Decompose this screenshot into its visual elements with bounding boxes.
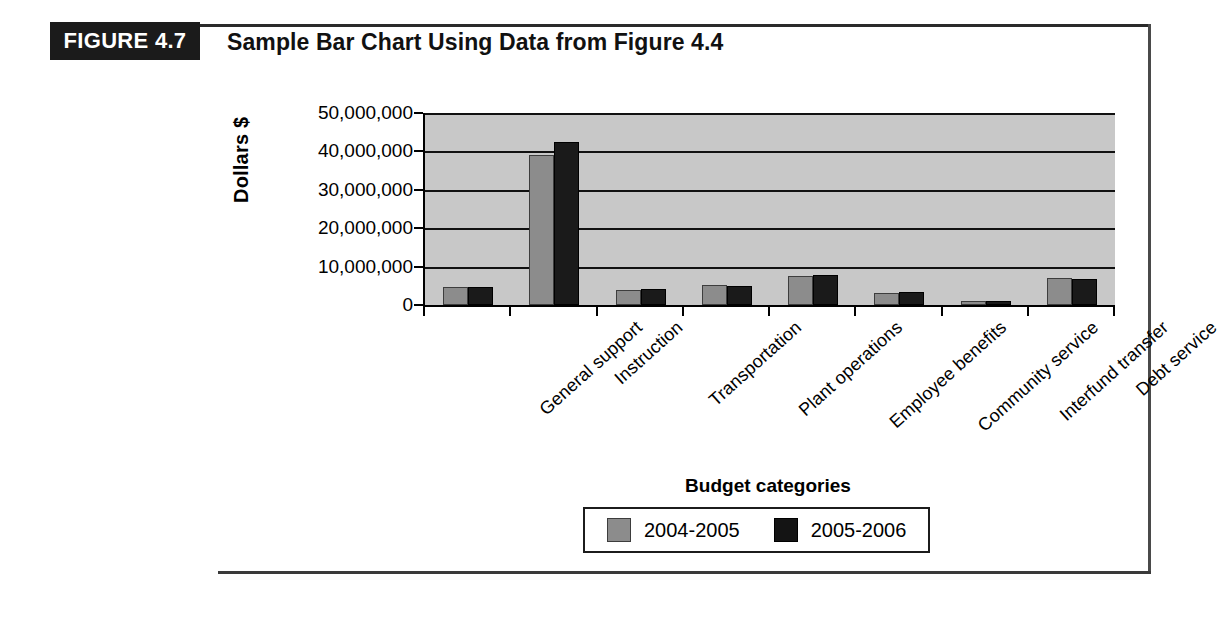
bar <box>1072 279 1097 305</box>
y-tick-mark <box>414 112 423 114</box>
figure-number-badge: FIGURE 4.7 <box>50 22 200 60</box>
x-tick-mark <box>682 305 684 316</box>
bar-group <box>425 113 511 305</box>
y-tick-label: 50,000,000 <box>318 102 413 124</box>
y-tick-label: 10,000,000 <box>318 256 413 278</box>
x-tick-mark <box>509 305 511 316</box>
bar-group <box>511 113 597 305</box>
bar-group <box>943 113 1029 305</box>
bar <box>788 276 813 305</box>
legend-label: 2005-2006 <box>811 519 907 542</box>
x-tick-mark <box>768 305 770 316</box>
figure-caption-title: Sample Bar Chart Using Data from Figure … <box>227 24 723 60</box>
legend-item: 2004-2005 <box>607 518 740 542</box>
bar <box>727 286 752 305</box>
x-category-label: Plant operations <box>795 317 907 421</box>
x-tick-mark <box>596 305 598 316</box>
bar <box>554 142 579 305</box>
bar-group <box>770 113 856 305</box>
bar <box>813 275 838 305</box>
x-axis-tick-marks <box>423 305 1113 317</box>
y-tick-label: 30,000,000 <box>318 179 413 201</box>
bar-group <box>598 113 684 305</box>
x-tick-mark <box>854 305 856 316</box>
plot-area <box>423 113 1115 307</box>
bar <box>529 155 554 305</box>
legend-swatch-icon <box>774 518 798 542</box>
legend-swatch-icon <box>607 518 631 542</box>
bar <box>1047 278 1072 305</box>
bar <box>899 292 924 305</box>
x-tick-mark <box>1027 305 1029 316</box>
bar-group <box>684 113 770 305</box>
bar-group <box>856 113 942 305</box>
legend-label: 2004-2005 <box>644 519 740 542</box>
bar-chart: Dollars $ 010,000,00020,000,00030,000,00… <box>218 85 1138 565</box>
y-tick-label: 0 <box>402 294 413 316</box>
x-tick-mark <box>423 305 425 316</box>
x-axis-title: Budget categories <box>423 475 1113 497</box>
bar <box>702 285 727 305</box>
chart-legend: 2004-2005 2005-2006 <box>583 507 930 553</box>
x-axis-category-labels: General supportInstructionTransportation… <box>423 317 1123 447</box>
y-tick-mark <box>414 150 423 152</box>
bar <box>443 287 468 306</box>
bar <box>468 287 493 306</box>
y-tick-mark <box>414 227 423 229</box>
y-tick-label: 20,000,000 <box>318 217 413 239</box>
y-tick-mark <box>414 189 423 191</box>
bar <box>874 293 899 305</box>
x-tick-mark <box>941 305 943 316</box>
x-category-label: Transportation <box>705 317 806 411</box>
bar <box>641 289 666 305</box>
bar-group <box>1029 113 1115 305</box>
legend-item: 2005-2006 <box>774 518 907 542</box>
y-tick-mark <box>414 304 423 306</box>
x-tick-mark <box>1113 305 1115 316</box>
y-axis-tick-labels: 010,000,00020,000,00030,000,00040,000,00… <box>258 85 423 325</box>
bar-groups <box>425 113 1115 305</box>
y-axis-title: Dollars $ <box>230 117 253 203</box>
figure-frame-right-rule <box>1148 24 1151 574</box>
y-tick-mark <box>414 266 423 268</box>
y-tick-label: 40,000,000 <box>318 140 413 162</box>
figure-frame-bottom-rule <box>218 571 1151 574</box>
bar <box>616 290 641 305</box>
